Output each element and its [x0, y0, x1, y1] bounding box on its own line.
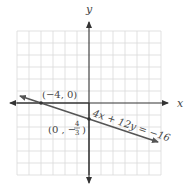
point-y-intercept — [87, 117, 91, 121]
svg-text:4: 4 — [75, 120, 80, 128]
svg-text:(0 , −: (0 , − — [48, 124, 76, 135]
point-label-x-intercept: (−4, 0) — [42, 89, 77, 100]
equation-label: 4x + 12y = −16 — [90, 107, 172, 144]
y-axis-label: y — [85, 3, 93, 16]
svg-text:3: 3 — [75, 129, 79, 137]
point-label-y-intercept: (0 , − 4 3 ) — [48, 120, 86, 137]
coordinate-plane: y x (−4, 0) (0 , − 4 3 ) 4x + 12y = −16 — [0, 0, 184, 185]
svg-text:): ) — [82, 124, 86, 135]
x-axis-label: x — [177, 97, 184, 110]
point-x-intercept — [39, 101, 43, 105]
